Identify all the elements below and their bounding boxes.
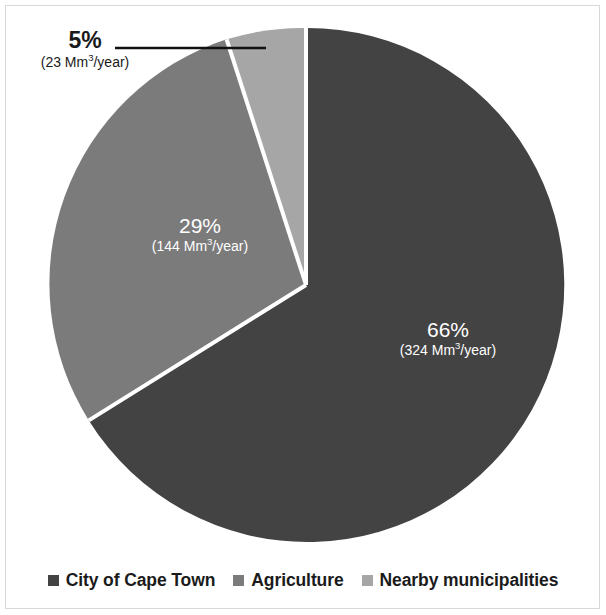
- pie-chart-figure: 66% (324 Mm3/year) 29% (144 Mm3/year) 5%…: [0, 0, 606, 615]
- chart-legend: City of Cape Town Agriculture Nearby mun…: [0, 558, 606, 602]
- legend-swatch-icon-agriculture: [233, 575, 244, 586]
- legend-item-nearby-municipalities[interactable]: Nearby municipalities: [362, 570, 559, 591]
- legend-label-nearby-municipalities: Nearby municipalities: [380, 570, 559, 591]
- pie-svg: [0, 0, 606, 560]
- legend-swatch-icon-city-of-cape-town: [48, 575, 59, 586]
- legend-swatch-icon-nearby-municipalities: [362, 575, 373, 586]
- pie-plot-area: 66% (324 Mm3/year) 29% (144 Mm3/year) 5%…: [0, 0, 606, 560]
- legend-label-agriculture: Agriculture: [251, 570, 343, 591]
- legend-item-city-of-cape-town[interactable]: City of Cape Town: [48, 570, 216, 591]
- legend-item-agriculture[interactable]: Agriculture: [233, 570, 343, 591]
- legend-label-city-of-cape-town: City of Cape Town: [66, 570, 216, 591]
